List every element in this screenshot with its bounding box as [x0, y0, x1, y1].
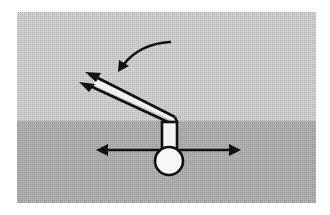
pivot-circle-icon [155, 147, 183, 175]
lever-diagram [0, 0, 330, 215]
panel-upper [17, 12, 316, 121]
